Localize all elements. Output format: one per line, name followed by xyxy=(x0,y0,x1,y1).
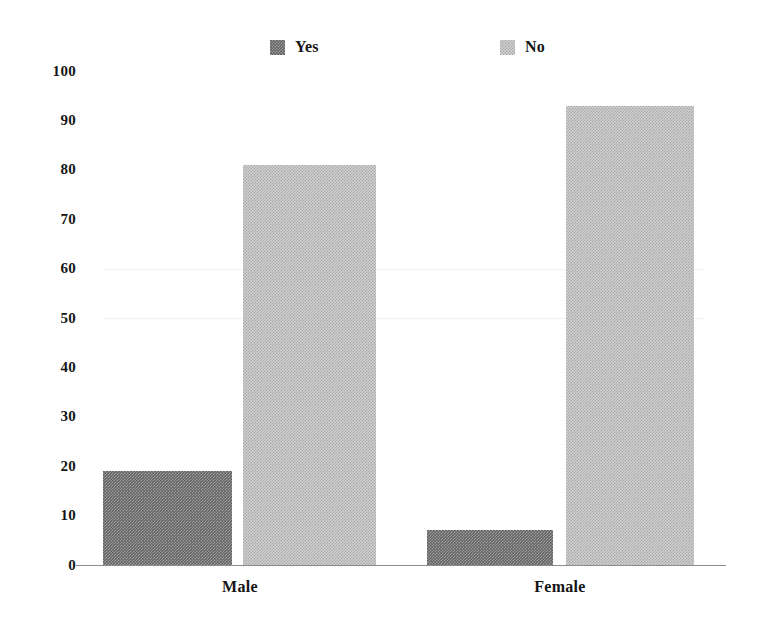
x-axis-line xyxy=(76,565,726,566)
y-axis-tick-30: 30 xyxy=(14,409,76,424)
plot-area: 100 90 80 70 60 50 40 30 20 10 0 Male Fe… xyxy=(0,0,760,620)
y-axis-tick-90: 90 xyxy=(14,113,76,128)
y-axis-tick-100: 100 xyxy=(14,64,76,79)
y-axis-tick-80: 80 xyxy=(14,162,76,177)
bar-male-yes[interactable] xyxy=(103,471,232,565)
y-axis-tick-50: 50 xyxy=(14,311,76,326)
bar-female-no[interactable] xyxy=(566,106,694,565)
bar-chart: Yes No 100 90 80 70 60 50 40 30 20 10 0 … xyxy=(0,0,760,620)
x-axis-tick-male: Male xyxy=(170,578,310,596)
bar-female-yes[interactable] xyxy=(427,530,553,565)
y-axis-tick-70: 70 xyxy=(14,212,76,227)
y-axis-tick-10: 10 xyxy=(14,508,76,523)
bar-male-no[interactable] xyxy=(243,165,376,565)
y-axis-tick-60: 60 xyxy=(14,261,76,276)
y-axis-tick-40: 40 xyxy=(14,360,76,375)
y-axis-tick-0: 0 xyxy=(14,558,76,573)
x-axis-tick-female: Female xyxy=(490,578,630,596)
y-axis-tick-20: 20 xyxy=(14,459,76,474)
